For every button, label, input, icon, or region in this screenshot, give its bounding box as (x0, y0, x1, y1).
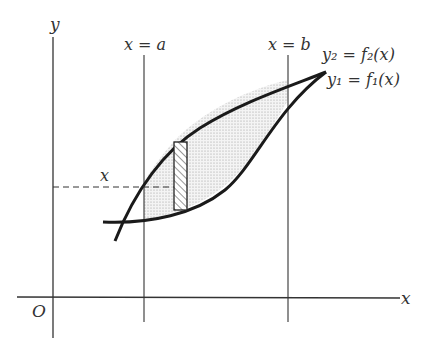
label-lower-curve: y₁ = f₁(x) (326, 70, 400, 89)
y-axis-label: y (49, 14, 60, 34)
area-between-curves-diagram: y x O x = a x = b y₂ = f₂(x) y₁ = f₁(x) … (0, 0, 421, 350)
x-axis (17, 297, 400, 298)
strip-x-label: x (100, 166, 109, 185)
label-x-equals-a: x = a (124, 35, 166, 54)
origin-label: O (32, 301, 46, 321)
shaded-region (103, 72, 326, 241)
label-upper-curve: y₂ = f₂(x) (321, 45, 395, 64)
hatched-strip (174, 142, 187, 210)
label-x-equals-b: x = b (268, 35, 311, 54)
x-axis-label: x (401, 288, 411, 308)
